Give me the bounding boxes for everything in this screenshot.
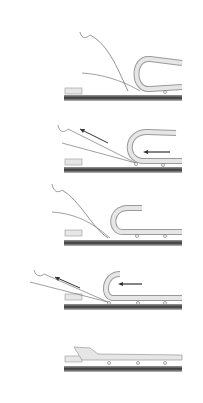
- hook-instrument: [80, 32, 128, 91]
- panel-step-4: [0, 262, 203, 320]
- surgical-sequence-figure: [0, 0, 203, 403]
- repositioned-flap: [74, 347, 182, 360]
- node-icon: [164, 91, 167, 94]
- tissue-segment-left: [65, 159, 82, 165]
- suture-line: [82, 73, 140, 91]
- tissue-segment-left: [65, 88, 82, 94]
- panel-step-1: [0, 25, 203, 110]
- tissue-base: [64, 167, 182, 173]
- tissue-base: [64, 366, 182, 372]
- tissue-base: [64, 95, 182, 101]
- tissue-base: [64, 240, 182, 246]
- traction-arrow-icon: [80, 129, 108, 143]
- panel-step-5: [0, 340, 203, 380]
- probe-instrument: [58, 125, 136, 163]
- panel-step-3: [0, 180, 203, 255]
- panel-step-2: [0, 115, 203, 180]
- tissue-base: [64, 304, 182, 310]
